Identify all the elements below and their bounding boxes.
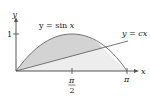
- y-tick-label-1: 1: [7, 30, 12, 39]
- x-tick-label-pi: π: [123, 75, 130, 84]
- x-axis-label: x: [141, 67, 146, 76]
- x-tick-label-half-pi-denominator: 2: [70, 86, 75, 95]
- sine-and-line-area-diagram: y x 1 π 2 π y = sin x y = cx: [0, 0, 150, 97]
- line-label: y = cx: [121, 29, 148, 38]
- y-axis-label: y: [12, 10, 18, 19]
- x-tick-label-half-pi-numerator: π: [68, 76, 75, 85]
- x-axis-arrow-icon: [134, 69, 139, 73]
- sine-curve-label: y = sin x: [38, 21, 75, 30]
